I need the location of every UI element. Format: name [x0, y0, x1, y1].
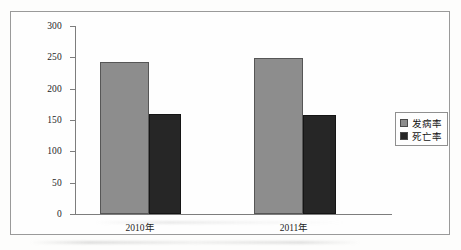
bar-2010-incidence: [100, 62, 149, 214]
legend-label-mortality: 死亡率: [412, 129, 442, 143]
y-tick-250: 250: [70, 57, 75, 58]
legend-item-incidence[interactable]: 发病率: [400, 116, 442, 129]
legend-swatch-mortality-icon: [400, 132, 408, 140]
y-tick-label-150: 150: [47, 115, 62, 125]
x-axis-line: [75, 214, 392, 215]
y-tick-300: 300: [70, 26, 75, 27]
y-tick-150: 150: [70, 120, 75, 121]
y-tick-100: 100: [70, 151, 75, 152]
chart-figure-frame: 300 250 200 150 100 50 0 2010年 2011年: [10, 11, 450, 235]
legend-item-mortality[interactable]: 死亡率: [400, 129, 442, 142]
scan-artifact-lower: [30, 241, 360, 244]
y-tick-200: 200: [70, 89, 75, 90]
bar-2010-mortality: [149, 114, 181, 214]
y-tick-label-250: 250: [47, 52, 62, 62]
y-tick-label-0: 0: [57, 209, 62, 219]
plot-area: 300 250 200 150 100 50 0 2010年 2011年: [75, 26, 391, 214]
bar-2011-mortality: [303, 115, 336, 214]
chart-legend: 发病率 死亡率: [395, 112, 448, 146]
y-tick-50: 50: [70, 183, 75, 184]
y-tick-label-50: 50: [52, 178, 62, 188]
y-tick-label-100: 100: [47, 146, 62, 156]
y-tick-label-300: 300: [47, 21, 62, 31]
y-tick-0: 0: [70, 214, 75, 215]
legend-swatch-incidence-icon: [400, 119, 408, 127]
bar-2011-incidence: [254, 58, 303, 214]
y-tick-label-200: 200: [47, 84, 62, 94]
legend-label-incidence: 发病率: [412, 116, 442, 130]
scan-artifact-upper: [95, 221, 345, 224]
y-axis-line: [75, 26, 76, 215]
